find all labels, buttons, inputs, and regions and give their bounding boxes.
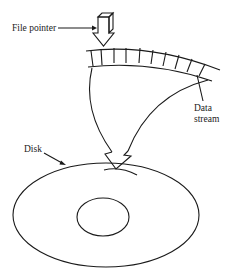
data-stream-leader [197, 75, 203, 101]
disk-spindle-hole [77, 198, 129, 236]
disk-outer-edge [13, 163, 199, 267]
data-stream-track [86, 48, 220, 81]
file-pointer-arrow [58, 26, 97, 31]
disk-label: Disk [24, 144, 42, 154]
data-stream-label-line2: stream [194, 114, 220, 124]
pointer-block-arrow-icon [93, 13, 114, 46]
disk-track-mark [104, 169, 137, 175]
data-stream-label-line1: Data [194, 103, 213, 113]
disk-data-stream-diagram: File pointer Data stream Disk [0, 0, 231, 279]
disk-arrow [44, 153, 66, 165]
flow-to-disk-arrow [90, 68, 209, 169]
file-pointer-label: File pointer [12, 23, 57, 33]
